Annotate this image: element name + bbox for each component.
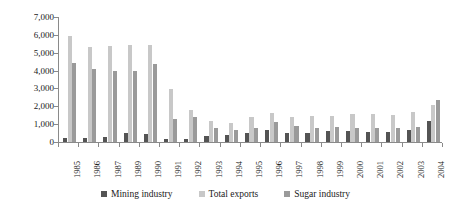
bar-group [245, 17, 258, 142]
x-axis-tick-label: 2002 [395, 144, 405, 178]
bar [225, 135, 229, 143]
bar [411, 112, 415, 142]
bar [431, 105, 435, 142]
x-axis-tick-label: 1987 [113, 144, 123, 178]
legend-swatch-icon [101, 191, 107, 197]
y-axis-tick-label: 3,000 [18, 83, 54, 94]
bar [245, 133, 249, 142]
x-axis-line [58, 142, 442, 143]
bar [436, 100, 440, 142]
plot-area [58, 17, 442, 142]
bar [204, 136, 208, 142]
bar [173, 119, 177, 142]
bar-group [407, 17, 420, 142]
x-axis-tick-label: 1992 [193, 144, 203, 178]
bar [184, 139, 188, 142]
bar [371, 114, 375, 142]
bar [113, 71, 117, 142]
bar [350, 114, 354, 142]
bar-chart: Pesos (Millions) 7,0006,0005,0004,0003,0… [0, 0, 451, 210]
bar [164, 139, 168, 142]
bar [407, 130, 411, 142]
legend-swatch-icon [284, 191, 290, 197]
y-axis-tick-mark [54, 71, 58, 72]
bar-group [204, 17, 217, 142]
bar [234, 130, 238, 143]
bar-group [305, 17, 318, 142]
bar [83, 138, 87, 142]
bar [294, 126, 298, 142]
bar [103, 137, 107, 142]
bar [265, 130, 269, 143]
bar [169, 89, 173, 142]
x-axis-tick-labels: 1985198619871989199019911992199319941995… [58, 146, 442, 180]
bar [108, 46, 112, 142]
x-axis-tick-label: 1995 [254, 144, 264, 178]
y-axis-tick-mark [54, 35, 58, 36]
bar [366, 132, 370, 142]
bar [193, 117, 197, 142]
bar [346, 131, 350, 142]
chart-legend: Mining industryTotal exportsSugar indust… [0, 189, 451, 199]
y-axis-tick-label: 5,000 [18, 48, 54, 59]
bar [214, 128, 218, 142]
bar [229, 123, 233, 142]
legend-label: Sugar industry [294, 189, 350, 199]
bar [290, 117, 294, 142]
bar [270, 113, 274, 142]
x-axis-tick-label: 1990 [153, 144, 163, 178]
bar [416, 127, 420, 142]
bar-group [63, 17, 76, 142]
x-axis-tick-label: 1996 [274, 144, 284, 178]
x-axis-tick-label: 2004 [436, 144, 446, 178]
bar-group [225, 17, 238, 142]
bar [249, 117, 253, 142]
y-axis-tick-mark [54, 106, 58, 107]
x-axis-tick-label: 1997 [294, 144, 304, 178]
bar [209, 121, 213, 142]
bar [315, 128, 319, 142]
bar [92, 69, 96, 142]
y-axis-tick-label: 7,000 [18, 12, 54, 23]
legend-label: Mining industry [111, 189, 173, 199]
bar-group [427, 17, 440, 142]
bar [274, 122, 278, 142]
bar [427, 121, 431, 142]
bar [124, 133, 128, 142]
bar-group [285, 17, 298, 142]
x-axis-tick-label: 1991 [173, 144, 183, 178]
bar [72, 63, 76, 142]
legend-swatch-icon [199, 191, 205, 197]
bar [355, 128, 359, 142]
bar-group [164, 17, 177, 142]
x-axis-tick-label: 1993 [214, 144, 224, 178]
bar-group [124, 17, 137, 142]
bar [148, 45, 152, 142]
x-axis-tick-label: 2000 [355, 144, 365, 178]
y-axis-tick-mark [54, 17, 58, 18]
bar-group [144, 17, 157, 142]
bar-group [265, 17, 278, 142]
bar [391, 115, 395, 143]
bars-layer [58, 17, 442, 142]
bar [335, 127, 339, 142]
x-axis-tick-label: 1986 [92, 144, 102, 178]
x-axis-tick-label: 1985 [72, 144, 82, 178]
y-axis-tick-mark [54, 53, 58, 54]
y-axis-tick-mark [54, 124, 58, 125]
bar-group [366, 17, 379, 142]
bar-group [83, 17, 96, 142]
y-axis-tick-labels: 7,0006,0005,0004,0003,0002,0001,0000 [18, 11, 54, 147]
bar [330, 116, 334, 142]
x-axis-tick-label: 2001 [375, 144, 385, 178]
legend-item: Mining industry [101, 189, 173, 199]
y-axis-tick-label: 6,000 [18, 30, 54, 41]
bar-group [386, 17, 399, 142]
bar [285, 133, 289, 142]
bar-group [103, 17, 116, 142]
bar [88, 47, 92, 142]
legend-item: Sugar industry [284, 189, 350, 199]
x-axis-tick-label: 1998 [315, 144, 325, 178]
x-axis-tick-label: 1989 [133, 144, 143, 178]
bar-group [346, 17, 359, 142]
